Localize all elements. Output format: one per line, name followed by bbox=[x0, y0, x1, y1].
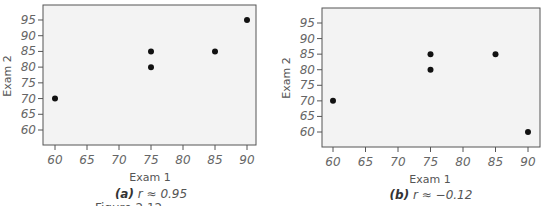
data-point bbox=[493, 51, 499, 57]
data-point bbox=[148, 48, 154, 54]
x-tick-label: 70 bbox=[390, 155, 406, 169]
y-tick-label: 90 bbox=[300, 32, 316, 46]
data-point bbox=[212, 48, 218, 54]
y-tick-label: 85 bbox=[300, 47, 315, 61]
y-tick-label: 80 bbox=[21, 60, 37, 74]
figure-label-fragment: Figure 2.12 bbox=[95, 201, 162, 206]
y-tick-label: 60 bbox=[300, 125, 316, 139]
y-tick-label: 95 bbox=[300, 16, 315, 30]
y-axis-b: 6065707580859095 bbox=[300, 16, 322, 139]
x-tick-label: 75 bbox=[423, 155, 438, 169]
y-tick-label: 85 bbox=[21, 44, 36, 58]
x-tick-label: 65 bbox=[358, 155, 373, 169]
y-tick-label: 95 bbox=[21, 13, 36, 27]
y-tick-label: 65 bbox=[300, 109, 315, 123]
x-tick-label: 60 bbox=[47, 153, 63, 167]
scatter-panel-a: 6065707580859095 60657075808590 Exam 1 E… bbox=[1, 5, 256, 201]
caption-a: (a) r ≈ 0.95 bbox=[115, 187, 187, 201]
x-tick-label: 70 bbox=[111, 153, 127, 167]
y-tick-label: 75 bbox=[300, 78, 315, 92]
x-tick-label: 80 bbox=[455, 155, 471, 169]
y-axis-title-b: Exam 2 bbox=[280, 57, 293, 98]
x-axis-title-b: Exam 1 bbox=[409, 173, 450, 186]
x-axis-b: 60657075808590 bbox=[325, 147, 536, 169]
data-point bbox=[525, 129, 531, 135]
y-axis-a: 6065707580859095 bbox=[21, 13, 43, 137]
x-tick-label: 85 bbox=[488, 155, 503, 169]
y-tick-label: 70 bbox=[21, 92, 37, 106]
x-axis-a: 60657075808590 bbox=[47, 145, 255, 167]
y-tick-label: 60 bbox=[21, 123, 37, 137]
x-axis-title-a: Exam 1 bbox=[129, 171, 170, 184]
y-tick-label: 90 bbox=[21, 29, 37, 43]
data-point bbox=[428, 51, 434, 57]
y-tick-label: 65 bbox=[21, 107, 36, 121]
caption-b: (b) r ≈ −0.12 bbox=[390, 188, 473, 202]
data-point bbox=[148, 64, 154, 70]
y-tick-label: 80 bbox=[300, 63, 316, 77]
y-tick-label: 75 bbox=[21, 76, 36, 90]
x-tick-label: 75 bbox=[143, 153, 158, 167]
data-point bbox=[244, 17, 250, 23]
data-point bbox=[330, 98, 336, 104]
data-point bbox=[428, 67, 434, 73]
y-axis-title-a: Exam 2 bbox=[1, 55, 14, 96]
data-point bbox=[52, 96, 58, 102]
plot-area-a bbox=[43, 5, 256, 145]
x-tick-label: 80 bbox=[175, 153, 191, 167]
figure-scatterplots: 6065707580859095 60657075808590 Exam 1 E… bbox=[0, 0, 541, 206]
scatter-panel-b: 6065707580859095 60657075808590 Exam 1 E… bbox=[280, 8, 540, 202]
x-tick-label: 85 bbox=[207, 153, 222, 167]
x-tick-label: 90 bbox=[239, 153, 255, 167]
x-tick-label: 65 bbox=[79, 153, 94, 167]
x-tick-label: 60 bbox=[325, 155, 341, 169]
plot-area-b bbox=[322, 8, 540, 147]
y-tick-label: 70 bbox=[300, 94, 316, 108]
x-tick-label: 90 bbox=[520, 155, 536, 169]
